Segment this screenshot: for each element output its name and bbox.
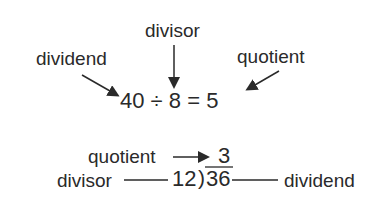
long-division-bracket: ) bbox=[198, 167, 205, 188]
equation-operator: ÷ bbox=[151, 88, 163, 113]
long-division-dividend: 36 bbox=[206, 168, 230, 190]
quotient-arrow-icon bbox=[248, 71, 279, 89]
equation-equals: = bbox=[187, 88, 200, 113]
equation-dividend: 40 bbox=[120, 88, 144, 113]
bottom-quotient-label: quotient bbox=[88, 147, 156, 166]
equation-divisor: 8 bbox=[169, 88, 181, 113]
dividend-label: dividend bbox=[36, 49, 107, 68]
equation: 40 ÷ 8 = 5 bbox=[120, 90, 218, 112]
bottom-divisor-label: divisor bbox=[57, 171, 112, 190]
long-division-divisor: 12 bbox=[172, 168, 196, 190]
bottom-dividend-label: dividend bbox=[284, 171, 355, 190]
quotient-label: quotient bbox=[237, 47, 305, 66]
dividend-arrow-icon bbox=[82, 75, 117, 95]
long-division-quotient: 3 bbox=[218, 145, 230, 167]
equation-quotient: 5 bbox=[206, 88, 218, 113]
divisor-label: divisor bbox=[145, 21, 200, 40]
division-terms-diagram: divisor dividend quotient 40 ÷ 8 = 5 quo… bbox=[0, 0, 391, 203]
